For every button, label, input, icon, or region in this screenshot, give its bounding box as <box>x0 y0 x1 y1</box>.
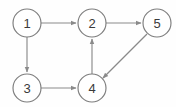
graph-node-2[interactable]: 2 <box>78 9 106 37</box>
node-5-label: 5 <box>153 16 160 31</box>
node-4-label: 4 <box>88 81 95 96</box>
graph-node-5[interactable]: 5 <box>143 9 171 37</box>
edge-5-to-4 <box>103 34 147 78</box>
graph-diagram: 1 2 5 3 4 <box>0 0 176 107</box>
graph-node-3[interactable]: 3 <box>13 74 41 102</box>
graph-node-4[interactable]: 4 <box>78 74 106 102</box>
node-2-label: 2 <box>88 16 95 31</box>
graph-node-1[interactable]: 1 <box>13 9 41 37</box>
node-3-label: 3 <box>23 81 30 96</box>
node-1-label: 1 <box>23 16 30 31</box>
graph-canvas: 1 2 5 3 4 <box>0 0 176 107</box>
